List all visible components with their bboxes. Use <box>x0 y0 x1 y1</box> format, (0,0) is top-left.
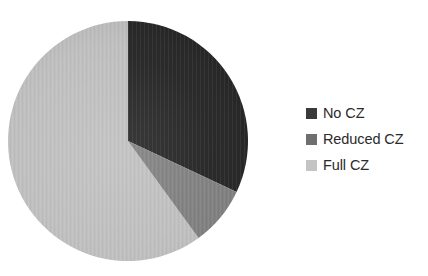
legend-label-reduced-cz: Reduced CZ <box>323 132 403 147</box>
pie-svg <box>0 0 276 276</box>
legend-label-full-cz: Full CZ <box>323 158 369 173</box>
legend-label-no-cz: No CZ <box>323 106 364 121</box>
legend-item-full-cz[interactable]: Full CZ <box>306 152 426 178</box>
pie-chart-figure: No CZ Reduced CZ Full CZ <box>0 0 428 276</box>
legend-item-reduced-cz[interactable]: Reduced CZ <box>306 126 426 152</box>
legend-swatch-reduced-cz <box>306 134 317 145</box>
chart-legend: No CZ Reduced CZ Full CZ <box>306 100 426 178</box>
legend-swatch-no-cz <box>306 108 317 119</box>
legend-item-no-cz[interactable]: No CZ <box>306 100 426 126</box>
pie-plot-area <box>0 0 276 276</box>
legend-swatch-full-cz <box>306 160 317 171</box>
pie-mottle-overlay <box>8 21 248 261</box>
